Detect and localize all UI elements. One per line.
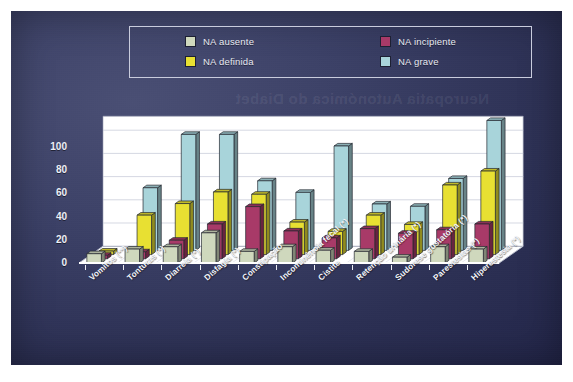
legend-item: NA incipiente <box>380 36 456 47</box>
y-tick-label: 40 <box>37 211 67 222</box>
chart-screenshot: Neuropatia Autonómica do Diabet NA ausen… <box>0 0 573 382</box>
x-tick-mark <box>314 265 315 270</box>
x-tick-mark <box>161 265 162 270</box>
y-tick-label: 80 <box>37 164 67 175</box>
x-tick-mark <box>238 265 239 270</box>
legend-label: NA incipiente <box>398 36 456 47</box>
chart-legend: NA ausenteNA definidaNA incipienteNA gra… <box>129 26 532 78</box>
x-tick-mark <box>391 265 392 270</box>
legend-item: NA grave <box>380 56 439 67</box>
x-tick-mark <box>429 265 430 270</box>
y-tick-label: 100 <box>37 141 67 152</box>
x-tick-mark <box>352 265 353 270</box>
legend-item: NA definida <box>185 56 254 67</box>
y-tick-label: 20 <box>37 234 67 245</box>
legend-swatch-icon <box>185 56 196 67</box>
bar-0-3 <box>201 230 219 263</box>
legend-swatch-icon <box>380 36 391 47</box>
legend-label: NA ausente <box>203 36 254 47</box>
y-tick-label: 0 <box>37 257 67 268</box>
legend-label: NA definida <box>203 56 254 67</box>
legend-item: NA ausente <box>185 36 254 47</box>
legend-label: NA grave <box>398 56 439 67</box>
x-tick-mark <box>200 265 201 270</box>
x-tick-mark <box>123 265 124 270</box>
legend-swatch-icon <box>185 36 196 47</box>
chart-panel: Neuropatia Autonómica do Diabet NA ausen… <box>11 11 562 365</box>
x-tick-mark <box>85 265 86 270</box>
x-tick-mark <box>276 265 277 270</box>
legend-swatch-icon <box>380 56 391 67</box>
y-tick-label: 60 <box>37 187 67 198</box>
x-tick-mark <box>467 265 468 270</box>
